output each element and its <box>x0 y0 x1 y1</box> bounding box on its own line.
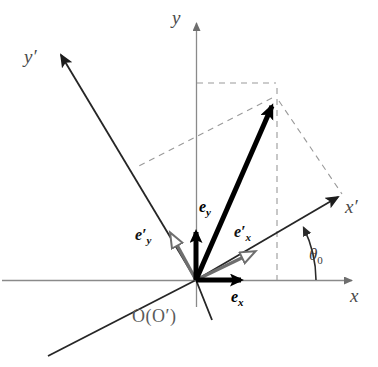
e-y-prime-subscript: y <box>147 234 152 246</box>
y-axis-label: y <box>172 8 180 27</box>
e-y-prime-label: e′y <box>135 227 152 246</box>
e-x-prime-subscript: x <box>246 231 252 243</box>
e-y-label: ey <box>199 199 211 218</box>
xprime-axis-label: x′ <box>345 197 358 216</box>
e-x-prime-symbol: e′ <box>234 223 246 240</box>
yprime-axis-lower <box>196 280 212 320</box>
e-y-prime-vector <box>172 236 196 280</box>
dashed-to-xprime-axis <box>279 101 342 194</box>
e-x-prime-label: e′x <box>234 224 251 243</box>
x-axis-label: x <box>350 286 358 305</box>
e-y-prime-symbol: e′ <box>135 226 147 243</box>
e-x-label: ex <box>231 289 244 308</box>
origin-label: O(O′) <box>132 307 176 325</box>
position-vector <box>196 106 272 280</box>
theta-subscript: 0 <box>317 254 323 266</box>
coordinate-rotation-figure: y y′ x′ x O(O′) θ0 ex ey e′x e′y <box>0 0 378 367</box>
xprime-axis-line <box>196 197 338 280</box>
theta-angle-label: θ0 <box>309 246 323 266</box>
e-x-subscript: x <box>238 296 244 308</box>
e-y-subscript: y <box>206 206 211 218</box>
yprime-axis-label: y′ <box>24 47 37 66</box>
figure-canvas <box>0 0 378 367</box>
